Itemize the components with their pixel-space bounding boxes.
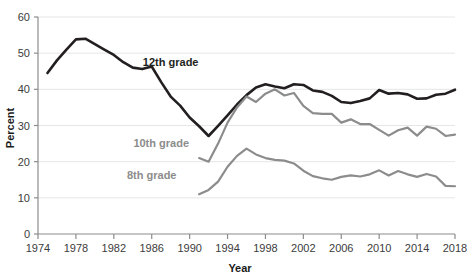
alcohol-use-by-grade-line-chart: 0102030405060 19741978198219861990199419… — [0, 0, 469, 279]
x-tick-label: 1994 — [215, 242, 239, 254]
gridlines-group — [38, 17, 455, 198]
x-tick-label: 2014 — [405, 242, 429, 254]
y-tick-label: 10 — [18, 192, 30, 204]
x-tick-label: 1978 — [64, 242, 88, 254]
series-lines-group — [47, 39, 455, 195]
y-tick-label: 40 — [18, 83, 30, 95]
y-tick-label: 20 — [18, 156, 30, 168]
x-tick-label: 2006 — [329, 242, 353, 254]
y-axis-title: Percent — [4, 107, 16, 148]
series-annotations-group: 12th grade10th grade8th grade — [127, 56, 199, 181]
y-tick-label: 0 — [24, 228, 30, 240]
x-tick-label: 2010 — [367, 242, 391, 254]
x-tick-label: 1986 — [139, 242, 163, 254]
x-tick-labels-group: 1974197819821986199019941998200220062010… — [26, 234, 467, 254]
series-label-8th-grade: 8th grade — [127, 169, 177, 181]
y-tick-label: 50 — [18, 47, 30, 59]
x-axis-title: Year — [228, 262, 252, 274]
y-tick-label: 30 — [18, 120, 30, 132]
x-tick-label: 2018 — [443, 242, 467, 254]
y-tick-labels-group: 0102030405060 — [18, 11, 38, 240]
y-tick-label: 60 — [18, 11, 30, 23]
x-tick-label: 1982 — [102, 242, 126, 254]
series-label-10th-grade: 10th grade — [133, 137, 189, 149]
x-tick-label: 2002 — [291, 242, 315, 254]
x-tick-label: 1998 — [253, 242, 277, 254]
series-label-12th-grade: 12th grade — [143, 56, 199, 68]
chart-canvas: 0102030405060 19741978198219861990199419… — [0, 0, 469, 279]
series-line-8th-grade — [199, 149, 455, 195]
x-tick-label: 1990 — [177, 242, 201, 254]
x-tick-label: 1974 — [26, 242, 50, 254]
